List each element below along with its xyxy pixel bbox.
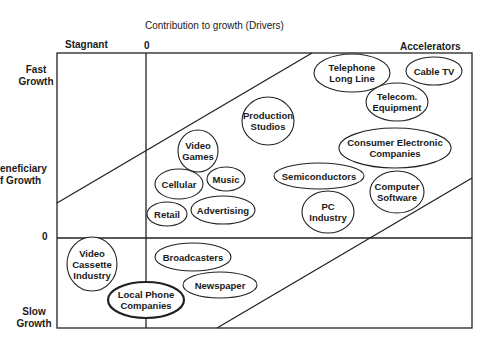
industry-label: Local Phone (118, 289, 174, 300)
industry-consumer-electronic-companies: Consumer ElectronicCompanies (339, 128, 451, 168)
industry-label: Computer (375, 181, 420, 192)
industry-label: Telecom. (377, 91, 417, 102)
industry-video-games: VideoGames (178, 130, 218, 172)
industry-label: PC (321, 201, 334, 212)
industry-label: Companies (369, 148, 420, 159)
industry-label: Semiconductors (282, 171, 356, 182)
industry-pc-industry: PCIndustry (302, 191, 354, 233)
industry-label: Equipment (372, 102, 422, 113)
industry-label: Cellular (162, 179, 197, 190)
industry-production-studios: ProductionStudios (242, 97, 294, 145)
industry-retail: Retail (147, 202, 187, 226)
industry-label: Games (182, 151, 214, 162)
industry-computer-software: ComputerSoftware (370, 171, 424, 213)
industry-broadcasters: Broadcasters (155, 243, 231, 271)
industry-label: Cassette (72, 259, 112, 270)
industry-label: Newspaper (195, 280, 246, 291)
industry-cable-tv: Cable TV (406, 57, 462, 85)
industry-telecom-equipment: Telecom.Equipment (366, 83, 428, 121)
industry-label: Software (377, 192, 417, 203)
industry-label: Broadcasters (163, 252, 224, 263)
industry-label: Retail (154, 209, 180, 220)
industry-label: Consumer Electronic (347, 137, 443, 148)
industry-local-phone-companies: Local PhoneCompanies (108, 282, 184, 318)
industry-label: Telephone (329, 62, 376, 73)
industry-label: Video (185, 140, 211, 151)
industry-label: Studios (251, 121, 286, 132)
industry-label: Advertising (197, 205, 249, 216)
industry-semiconductors: Semiconductors (274, 163, 364, 189)
industry-advertising: Advertising (191, 196, 255, 224)
industry-label: Cable TV (414, 66, 455, 77)
industry-cellular: Cellular (155, 169, 203, 199)
industry-music: Music (207, 167, 245, 191)
industry-label: Industry (73, 270, 111, 281)
industry-label: Music (213, 174, 240, 185)
industry-label: Long Line (329, 73, 374, 84)
industry-label: Industry (309, 212, 347, 223)
industry-video-cassette-industry: VideoCassetteIndustry (67, 237, 117, 291)
industry-label: Companies (120, 300, 171, 311)
industry-newspaper: Newspaper (183, 272, 257, 298)
industry-label: Production (243, 110, 293, 121)
growth-matrix: TelephoneLong LineCable TVTelecom.Equipm… (0, 0, 498, 350)
industry-label: Video (79, 248, 105, 259)
